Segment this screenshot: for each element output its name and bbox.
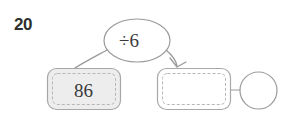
worksheet-canvas: 20 ÷6 86 — [0, 0, 281, 126]
connector-input-to-bubble — [72, 50, 107, 70]
arrowhead-icon — [170, 58, 186, 67]
operation-label: ÷6 — [119, 31, 139, 50]
connector-bubble-to-output — [166, 50, 177, 66]
answer-circle[interactable] — [240, 72, 277, 109]
output-box-outline[interactable] — [158, 69, 231, 110]
input-value-label: 86 — [74, 81, 93, 100]
diagram-svg — [0, 0, 281, 126]
